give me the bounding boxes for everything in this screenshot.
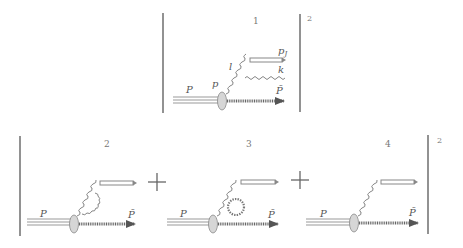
gluon-k-label: k — [278, 64, 284, 75]
jet-line — [381, 180, 414, 184]
top-squared-amplitude: 2 1 P P̃ l p pJ k — [163, 13, 312, 113]
proton-line — [173, 97, 219, 103]
plus-sign — [291, 171, 309, 189]
feynman-diagram-3: 3 P P̃ — [167, 139, 279, 233]
remnant-label: P̃ — [267, 209, 275, 220]
proton-blob — [350, 214, 359, 232]
diagram-canvas: 2 1 P P̃ l p pJ k — [0, 0, 463, 248]
proton-label: P — [39, 208, 47, 219]
jet-line — [100, 181, 133, 185]
remnant-label: P̃ — [127, 209, 135, 220]
proton-blob — [218, 92, 227, 110]
feynman-diagram-2: 2 P P̃ — [27, 139, 137, 233]
exchange-gluon — [82, 193, 100, 215]
exponent-label: 2 — [437, 136, 442, 145]
diagram-number: 2 — [104, 139, 110, 149]
gluon — [77, 180, 96, 216]
plus-sign — [148, 173, 166, 191]
feynman-diagram-4: 4 P P̃ — [306, 139, 418, 232]
gluon — [358, 180, 377, 216]
proton-label: P — [185, 84, 193, 95]
proton-blob — [209, 215, 218, 233]
jet-label: pJ — [278, 45, 288, 58]
gluon-l — [226, 54, 246, 94]
proton-blob — [70, 215, 79, 233]
proton-label: P — [319, 208, 327, 219]
diagram-number: 4 — [385, 139, 391, 149]
gluon-l-label: l — [229, 61, 232, 72]
gluon-loop — [228, 199, 244, 215]
exponent-label: 2 — [307, 14, 312, 23]
proton-label: P — [179, 208, 187, 219]
jet-line — [241, 180, 275, 184]
parton-label: p — [212, 78, 219, 89]
feynman-diagram-1: P P̃ l p pJ k — [173, 45, 288, 110]
gluon-k — [245, 77, 285, 80]
bottom-squared-amplitude: 2 2 P P̃ 3 — [20, 135, 442, 236]
jet-line — [250, 58, 282, 62]
remnant-label: P̃ — [408, 207, 416, 218]
gluon — [217, 180, 236, 216]
remnant-label: P̃ — [275, 85, 283, 96]
diagram-number: 3 — [246, 139, 252, 149]
diagram-number: 1 — [253, 16, 259, 26]
